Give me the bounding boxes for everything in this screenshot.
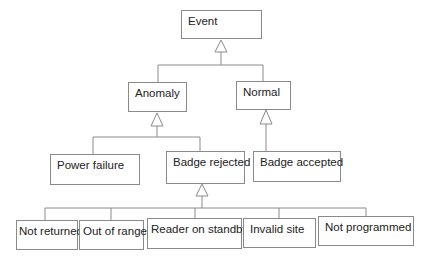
generalization-arrow-anomaly <box>151 113 163 126</box>
node-event: Event <box>181 10 262 39</box>
node-not-programmed: Not programmed <box>318 216 414 246</box>
node-normal: Normal <box>236 81 291 110</box>
node-badge-rejected: Badge rejected <box>166 151 245 184</box>
generalization-arrow-normal <box>260 110 272 124</box>
node-anomaly: Anomaly <box>128 82 187 112</box>
node-out-of-range: Out of range <box>79 220 144 250</box>
node-badge-accepted: Badge accepted <box>253 151 341 182</box>
node-not-returned: Not returned <box>16 220 78 250</box>
generalization-arrow-badge-rejected <box>196 184 208 196</box>
generalization-arrow-event <box>215 40 227 52</box>
node-invalid-site: Invalid site <box>243 218 316 248</box>
node-power-failure: Power failure <box>50 154 140 185</box>
node-reader-on-standby: Reader on standby <box>147 218 242 249</box>
